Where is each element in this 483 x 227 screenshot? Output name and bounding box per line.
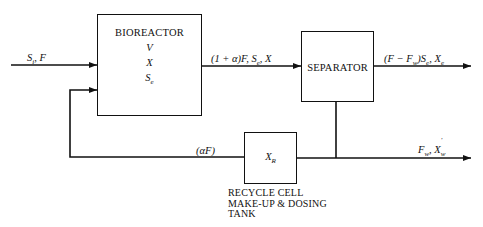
bioreactor-var-x: X <box>98 58 201 69</box>
label-part: )S <box>417 53 426 64</box>
separator-title: SEPARATOR <box>302 62 373 73</box>
recycle-caption-line-3: TANK <box>228 209 327 220</box>
effluent-label: (F − Fw)Se, Xe <box>384 54 444 67</box>
label-sub: w <box>441 150 446 158</box>
label-part: (F − F <box>384 53 413 64</box>
recycle-caption: RECYCLE CELL MAKE-UP & DOSING TANK <box>228 188 327 220</box>
var-sub: R <box>272 157 276 165</box>
separator-block: SEPARATOR <box>301 31 374 102</box>
process-flow-diagram: BIOREACTOR V X Se SEPARATOR XR RECYCLE C… <box>0 0 483 227</box>
label-part: , X <box>260 53 272 64</box>
bioreactor-var-se: Se <box>98 73 201 86</box>
label-sup: ' <box>441 137 443 144</box>
recycle-var-xr: XR <box>245 152 296 165</box>
waste-label: Fw, X'w <box>418 145 445 158</box>
var-sub: e <box>151 78 154 86</box>
bioreactor-var-v: V <box>98 43 201 54</box>
recycle-tank-block: XR <box>244 132 297 184</box>
recycle-flow-label: (αF) <box>196 146 215 157</box>
bioreactor-title: BIOREACTOR <box>98 27 201 38</box>
label-part: (1 + α)F, S <box>211 53 257 64</box>
bioreactor-block: BIOREACTOR V X Se <box>97 14 202 116</box>
reactor-out-label: (1 + α)F, Se, X <box>211 54 271 67</box>
label-sub: e <box>441 59 444 67</box>
feed-label: Si, F <box>27 53 46 66</box>
label-part: , X <box>429 53 441 64</box>
recycle-caption-line-1: RECYCLE CELL <box>228 188 327 199</box>
label-part: , F <box>34 52 46 63</box>
label-part: , X <box>429 144 441 155</box>
